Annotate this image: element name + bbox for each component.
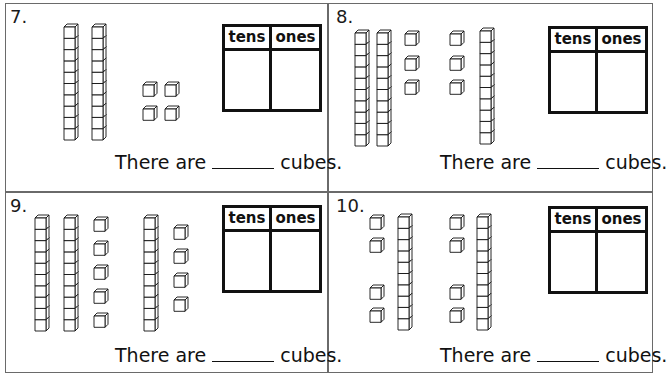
tens-rod <box>64 24 78 140</box>
tens-header: tens <box>225 208 272 232</box>
answer-sentence: There arecubes. <box>440 151 667 173</box>
tens-answer-cell[interactable] <box>551 53 598 111</box>
answer-blank[interactable] <box>537 152 599 169</box>
tens-ones-table: tens ones <box>548 206 648 294</box>
unit-cube <box>94 241 108 255</box>
answer-blank[interactable] <box>212 345 274 362</box>
unit-cube <box>450 285 464 299</box>
ones-answer-cell[interactable] <box>272 232 319 290</box>
unit-cube <box>94 289 108 303</box>
tens-rod <box>480 28 494 144</box>
answer-sentence: There arecubes. <box>115 344 342 366</box>
unit-cube <box>165 106 179 120</box>
ones-header: ones <box>598 29 645 53</box>
unit-cube <box>174 225 188 239</box>
problem-number: 10. <box>336 195 365 216</box>
unit-cube <box>143 82 157 96</box>
answer-blank[interactable] <box>537 345 599 362</box>
ones-header: ones <box>272 27 319 51</box>
unit-cube <box>405 56 419 70</box>
ones-answer-cell[interactable] <box>598 233 645 291</box>
unit-cube <box>450 238 464 252</box>
sentence-suffix: cubes. <box>605 151 667 173</box>
tens-answer-cell[interactable] <box>225 232 272 290</box>
unit-cube <box>165 82 179 96</box>
sentence-suffix: cubes. <box>605 344 667 366</box>
sentence-suffix: cubes. <box>280 344 342 366</box>
unit-cube <box>143 106 157 120</box>
problem-number: 8. <box>336 6 353 27</box>
unit-cube <box>94 217 108 231</box>
tens-header: tens <box>551 29 598 53</box>
tens-rod <box>144 215 158 331</box>
unit-cube <box>405 31 419 45</box>
unit-cube <box>174 273 188 287</box>
unit-cube <box>94 313 108 327</box>
tens-answer-cell[interactable] <box>225 51 272 109</box>
unit-cube <box>450 215 464 229</box>
tens-header: tens <box>551 209 598 233</box>
unit-cube <box>450 80 464 94</box>
tens-rod <box>355 30 369 146</box>
tens-rod <box>377 30 391 146</box>
tens-rod <box>35 215 49 331</box>
unit-cube <box>450 308 464 322</box>
unit-cube <box>370 308 384 322</box>
tens-answer-cell[interactable] <box>551 233 598 291</box>
tens-ones-table: tens ones <box>222 205 322 293</box>
ones-answer-cell[interactable] <box>272 51 319 109</box>
unit-cube <box>174 297 188 311</box>
unit-cube <box>174 249 188 263</box>
problem-number: 9. <box>10 195 27 216</box>
unit-cube <box>405 80 419 94</box>
tens-rod <box>92 24 106 140</box>
tens-rod <box>64 215 78 331</box>
sentence-prefix: There are <box>115 344 206 366</box>
tens-rod <box>398 214 412 330</box>
ones-header: ones <box>598 209 645 233</box>
tens-rod <box>477 214 491 330</box>
unit-cube <box>450 31 464 45</box>
answer-sentence: There arecubes. <box>115 151 342 173</box>
unit-cube <box>370 215 384 229</box>
unit-cube <box>450 56 464 70</box>
unit-cube <box>370 238 384 252</box>
tens-ones-table: tens ones <box>222 24 322 112</box>
unit-cube <box>370 285 384 299</box>
tens-header: tens <box>225 27 272 51</box>
ones-answer-cell[interactable] <box>598 53 645 111</box>
sentence-prefix: There are <box>115 151 206 173</box>
sentence-suffix: cubes. <box>280 151 342 173</box>
answer-blank[interactable] <box>212 152 274 169</box>
tens-ones-table: tens ones <box>548 26 648 114</box>
ones-header: ones <box>272 208 319 232</box>
answer-sentence: There arecubes. <box>440 344 667 366</box>
sentence-prefix: There are <box>440 344 531 366</box>
unit-cube <box>94 265 108 279</box>
sentence-prefix: There are <box>440 151 531 173</box>
